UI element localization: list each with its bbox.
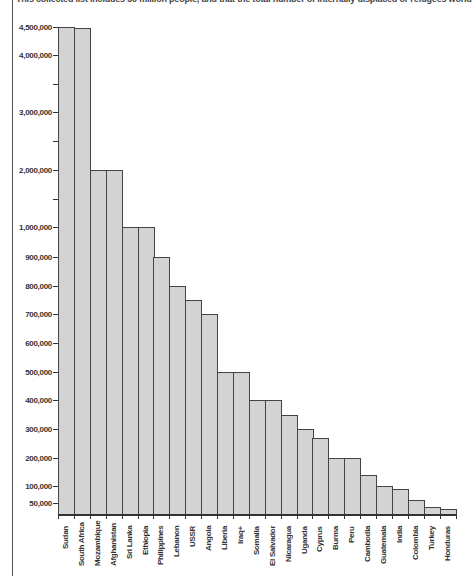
bar-angola (201, 314, 218, 515)
bar-colombia (408, 500, 425, 515)
y-axis-label: 400,000 (25, 396, 52, 405)
bar-somalia (249, 400, 266, 515)
x-axis-label: Cambodia (363, 526, 372, 566)
bar-sri-lanka (122, 227, 139, 515)
bar-mozambique (90, 170, 107, 515)
x-axis-label: Colombia (411, 526, 420, 566)
x-axis-label: Guatemala (379, 526, 388, 566)
x-axis-label: Philippines (156, 526, 165, 566)
bar-cyprus (312, 438, 329, 515)
bar-philippines (153, 257, 170, 515)
x-axis-label: Angola (204, 526, 213, 566)
x-axis-label: Sri Lanka (125, 526, 134, 566)
x-axis-label: Nicaragua (284, 526, 293, 566)
bar-peru (344, 458, 361, 515)
y-axis-label: 600,000 (25, 339, 52, 348)
y-axis-label: 1,000,000 (19, 223, 52, 232)
bar-south-africa (74, 28, 91, 515)
y-axis-label: 4,500,000 (19, 23, 52, 32)
y-axis-label: 200,000 (25, 454, 52, 463)
x-axis-label: South Africa (77, 526, 86, 566)
x-axis-baseline (58, 514, 456, 516)
bar-afghanistan (106, 170, 123, 515)
x-axis-tick (456, 515, 457, 519)
x-axis-label: Iraq+ (236, 526, 245, 566)
x-axis-label: Peru (347, 526, 356, 566)
x-axis-label: Ethiopia (141, 526, 150, 566)
y-axis-label: 50,000 (29, 499, 52, 508)
bar-el-salvador (265, 400, 282, 515)
y-axis-label: 900,000 (25, 253, 52, 262)
bar-nicaragua (281, 415, 298, 515)
x-axis-label: Turkey (427, 526, 436, 566)
bar-ussr (185, 300, 202, 515)
bar-sudan (58, 27, 75, 515)
bar-guatemala (376, 486, 393, 515)
x-axis-label: Sudan (61, 526, 70, 566)
x-axis-label: Honduras (443, 526, 452, 566)
bar-iraq- (233, 372, 250, 515)
y-axis-label: 100,000 (25, 482, 52, 491)
x-axis-label: USSR (188, 526, 197, 566)
x-axis-label: Afghanistan (109, 526, 118, 566)
x-axis-label: Uganda (300, 526, 309, 566)
bar-chart: 4,500,0004,000,0003,000,0002,000,0001,00… (0, 0, 472, 576)
bar-lebanon (169, 286, 186, 515)
y-axis-label: 700,000 (25, 310, 52, 319)
x-axis-label: Cyprus (315, 526, 324, 566)
bar-cambodia (360, 475, 377, 515)
y-axis-label: 500,000 (25, 368, 52, 377)
x-axis-label: India (395, 526, 404, 566)
x-axis-label: Burma (331, 526, 340, 566)
x-axis-label: Lebanon (172, 526, 181, 566)
y-axis-label: 800,000 (25, 282, 52, 291)
x-axis-label: Mozambique (93, 526, 102, 566)
bar-liberia (217, 372, 234, 515)
y-axis-label: 300,000 (25, 425, 52, 434)
x-axis-label: El Salvador (268, 526, 277, 566)
y-axis-label: 4,000,000 (19, 51, 52, 60)
bar-burma (328, 458, 345, 515)
y-axis-label: 2,000,000 (19, 166, 52, 175)
x-axis-label: Liberia (220, 526, 229, 566)
y-axis-label: 3,000,000 (19, 108, 52, 117)
bar-india (392, 489, 409, 515)
x-axis-label: Somalia (252, 526, 261, 566)
